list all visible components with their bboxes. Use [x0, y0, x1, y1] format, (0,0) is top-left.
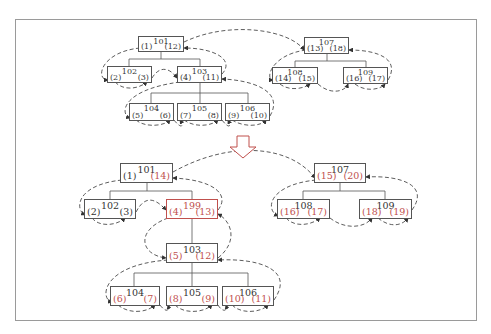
after-node-107: 107 (15) (20) — [314, 163, 366, 183]
node-left-index: (13) — [307, 44, 323, 53]
node-right-index: (6) — [160, 111, 171, 120]
node-left-index: (10) — [225, 294, 245, 304]
node-right-index: (11) — [203, 73, 219, 82]
before-node-104: 104 (5) (6) — [129, 103, 174, 121]
node-left-index: (18) — [362, 207, 382, 217]
node-left-index: (2) — [110, 73, 121, 82]
node-left-index: (8) — [169, 294, 182, 304]
node-right-index: (18) — [330, 44, 346, 53]
node-right-index: (20) — [343, 171, 363, 181]
after-node-101: 101 (1) (14) — [120, 163, 173, 183]
node-left-index: (4) — [169, 207, 182, 217]
node-right-index: (19) — [389, 207, 409, 217]
before-node-105: 105 (7) (8) — [177, 103, 222, 121]
before-node-103: 103 (4) (11) — [177, 66, 222, 83]
before-node-102: 102 (2) (3) — [107, 66, 152, 83]
node-left-index: (1) — [123, 171, 136, 181]
after-node-105: 105 (8) (9) — [166, 286, 218, 306]
node-right-index: (12) — [195, 251, 215, 261]
before-node-109: 109 (16) (17) — [343, 67, 388, 84]
before-node-107: 107 (13) (18) — [304, 37, 349, 54]
after-node-108: 108 (16) (17) — [277, 199, 330, 219]
after-node-106: 106 (10) (11) — [222, 286, 274, 306]
node-left-index: (9) — [228, 111, 239, 120]
node-right-index: (3) — [138, 73, 149, 82]
after-node-199-inserted: 199 (4) (13) — [166, 199, 218, 219]
node-right-index: (7) — [144, 294, 157, 304]
before-node-106: 106 (9) (10) — [225, 103, 270, 121]
node-right-index: (17) — [369, 74, 385, 83]
node-left-index: (7) — [180, 111, 191, 120]
node-right-index: (13) — [195, 207, 215, 217]
node-left-index: (15) — [317, 171, 337, 181]
node-right-index: (17) — [307, 207, 327, 217]
before-node-101: 101 (1) (12) — [138, 36, 184, 52]
node-right-index: (14) — [150, 171, 170, 181]
node-left-index: (16) — [280, 207, 300, 217]
node-left-index: (2) — [87, 207, 100, 217]
node-left-index: (5) — [169, 251, 182, 261]
connector-layer — [0, 0, 491, 334]
node-right-index: (11) — [251, 294, 271, 304]
node-right-index: (8) — [208, 111, 219, 120]
node-left-index: (4) — [180, 73, 191, 82]
after-node-103: 103 (5) (12) — [166, 243, 218, 263]
node-right-index: (10) — [251, 111, 267, 120]
node-left-index: (14) — [275, 74, 291, 83]
node-right-index: (3) — [120, 207, 133, 217]
after-node-109: 109 (18) (19) — [359, 199, 412, 219]
node-right-index: (9) — [202, 294, 215, 304]
after-node-104: 104 (6) (7) — [110, 286, 160, 306]
after-node-102: 102 (2) (3) — [84, 199, 136, 219]
node-left-index: (1) — [141, 42, 152, 51]
down-arrow-icon — [230, 136, 256, 158]
node-left-index: (16) — [346, 74, 362, 83]
node-left-index: (5) — [132, 111, 143, 120]
node-left-index: (6) — [113, 294, 126, 304]
before-node-108: 108 (14) (15) — [272, 67, 318, 84]
node-right-index: (15) — [299, 74, 315, 83]
node-right-index: (12) — [165, 42, 181, 51]
